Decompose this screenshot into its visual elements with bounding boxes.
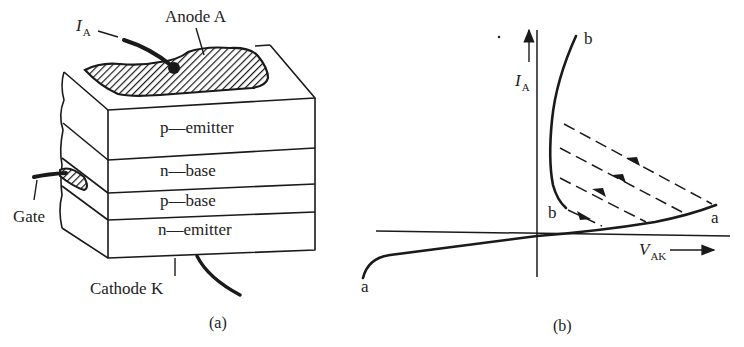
switching-path-3 <box>560 178 646 222</box>
anode-current-label: IA <box>76 17 91 34</box>
broken-edge <box>60 72 64 228</box>
switching-arrow-4 <box>577 211 591 220</box>
layer-divider-1 <box>108 148 315 160</box>
x-axis-label: VAK <box>639 241 666 258</box>
gate-leader-line <box>34 180 37 200</box>
anode-solder-dot <box>168 62 180 74</box>
on-state-curve <box>550 36 576 208</box>
current-leader-line <box>98 31 118 37</box>
point-label-a-right: a <box>711 209 719 226</box>
top-back-edge <box>255 45 270 46</box>
figure-a-caption: (a) <box>209 315 227 331</box>
side-divider-3 <box>62 186 108 220</box>
figure-b-caption: (b) <box>553 318 572 334</box>
side-bottom-edge <box>62 228 108 258</box>
cathode-wire <box>197 256 240 295</box>
layer-label-p-emitter: p—emitter <box>160 119 234 136</box>
anode-label: Anode A <box>165 8 226 25</box>
current-subscript: A <box>83 26 91 38</box>
layer-label-n-emitter: n—emitter <box>158 221 232 238</box>
x-axis-symbol: V <box>639 240 649 259</box>
point-label-b-top: b <box>584 30 593 47</box>
switching-arrow-2 <box>612 174 626 183</box>
y-axis-subscript: A <box>522 81 530 93</box>
point-label-a-left: a <box>361 278 369 295</box>
current-symbol: I <box>76 16 82 35</box>
switching-arrow-1 <box>626 157 640 166</box>
cathode-label: Cathode K <box>90 280 163 297</box>
side-divider-1 <box>63 123 108 160</box>
stray-dot <box>498 36 500 38</box>
y-axis-symbol: I <box>515 71 521 90</box>
y-axis-label: IA <box>515 72 530 89</box>
point-label-b-bottom: b <box>548 204 557 221</box>
layer-label-p-base: p—base <box>160 192 216 209</box>
x-axis-subscript: AK <box>650 250 666 262</box>
layer-label-n-base: n—base <box>160 162 216 179</box>
anode-wire <box>124 40 172 66</box>
layer-divider-3 <box>108 212 315 220</box>
gate-label: Gate <box>13 208 45 225</box>
iv-characteristic-plot <box>363 30 730 278</box>
